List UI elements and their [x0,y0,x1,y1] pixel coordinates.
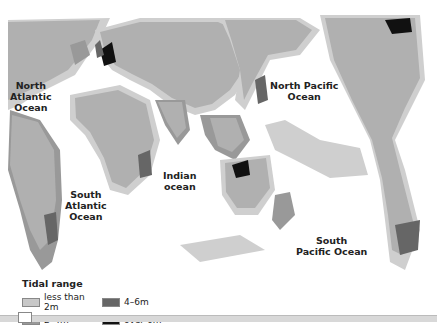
world-tidal-map [0,0,437,290]
australia [220,155,275,215]
legend-label: less than 2m [44,292,102,312]
label-line: Ocean [65,211,107,222]
label-line: North [10,80,52,91]
americas-right [320,15,425,270]
label-line: Pacific Ocean [296,246,367,257]
legend-item: less than 2m [22,292,102,312]
swatch-less-than-2m [22,298,40,307]
ocean-label-north-atlantic: North Atlantic Ocean [10,80,52,113]
label-line: Ocean [10,102,52,113]
label-line: ocean [163,181,197,192]
legend-item: 4–6m [102,292,182,312]
swatch-4-6m [102,298,120,307]
ocean-label-indian: Indian ocean [163,170,197,192]
antarctica-edge [180,235,265,262]
label-line: Indian [163,170,197,181]
africa [70,85,160,195]
pacific-islands [265,120,368,178]
label-line: North Pacific [270,80,338,91]
label-line: Atlantic [10,91,52,102]
ocean-label-south-atlantic: South Atlantic Ocean [65,189,107,222]
legend-label: 4–6m [124,297,149,307]
south-america [8,110,62,270]
new-zealand [272,192,295,230]
bottom-checkbox[interactable] [18,312,32,323]
label-line: South [65,189,107,200]
bottom-bar [0,315,437,322]
ocean-label-south-pacific: South Pacific Ocean [296,235,367,257]
label-line: Ocean [270,91,338,102]
legend-title: Tidal range [22,278,182,289]
label-line: South [296,235,367,246]
label-line: Atlantic [65,200,107,211]
ocean-label-north-pacific: North Pacific Ocean [270,80,338,102]
